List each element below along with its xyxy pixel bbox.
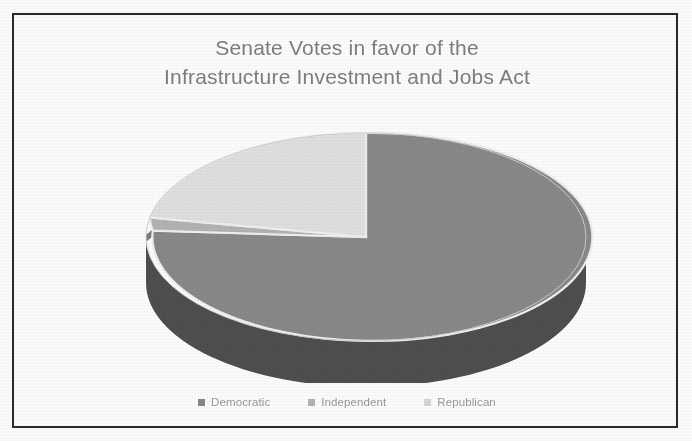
legend-item-independent[interactable]: Independent <box>308 396 386 408</box>
pie-top-face <box>150 133 593 341</box>
figure-root: Senate Votes in favor of the Infrastruct… <box>0 0 692 441</box>
legend-item-democratic[interactable]: Democratic <box>198 396 270 408</box>
legend-swatch-republican <box>424 399 431 406</box>
legend-item-republican[interactable]: Republican <box>424 396 496 408</box>
chart-title-line-2: Infrastructure Investment and Jobs Act <box>14 62 680 91</box>
legend-label-democratic: Democratic <box>211 396 270 408</box>
pie-chart-plot-area <box>14 105 680 383</box>
chart-legend: Democratic Independent Republican <box>14 396 680 408</box>
chart-title-line-1: Senate Votes in favor of the <box>14 33 680 62</box>
pie-chart-svg <box>14 105 680 383</box>
legend-swatch-democratic <box>198 399 205 406</box>
chart-title: Senate Votes in favor of the Infrastruct… <box>14 33 680 91</box>
legend-swatch-independent <box>308 399 315 406</box>
pie-slice-republican[interactable] <box>150 133 366 237</box>
chart-frame: Senate Votes in favor of the Infrastruct… <box>12 13 678 428</box>
legend-label-independent: Independent <box>321 396 386 408</box>
legend-label-republican: Republican <box>437 396 496 408</box>
